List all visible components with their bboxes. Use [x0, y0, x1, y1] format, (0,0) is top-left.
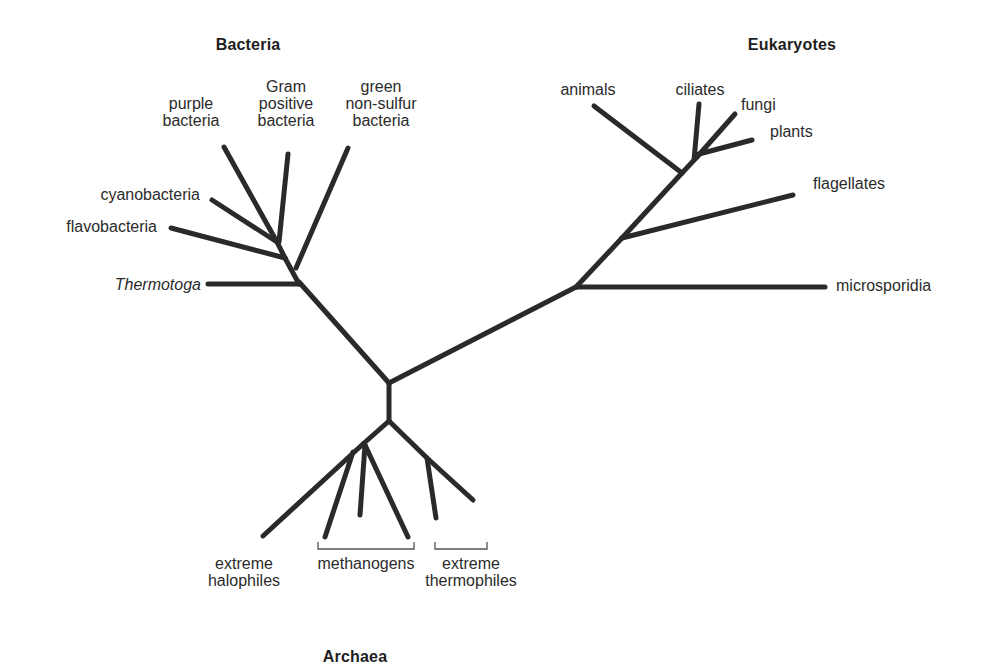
branch-root-to-eukaryotes [389, 287, 576, 383]
leaf-cyanobacteria: cyanobacteria [100, 186, 200, 203]
leaf-text-line: extreme [425, 555, 517, 572]
leaf-fungi: fungi [741, 96, 776, 113]
branch-archaea-right [389, 421, 427, 458]
leaf-text-line: green [345, 78, 416, 95]
leaf-text-line: non-sulfur [345, 95, 416, 112]
branch-green-non-sulfur [296, 148, 348, 268]
leaf-extreme-thermophiles: extreme thermophiles [425, 555, 517, 589]
branch-methanogen-3 [365, 445, 408, 537]
extreme-thermophiles-bracket [435, 542, 487, 549]
leaf-ciliates: ciliates [676, 81, 725, 98]
leaf-text-line: Gram [258, 78, 315, 95]
leaf-text-line: purple [163, 95, 220, 112]
leaf-text-line: extreme [208, 555, 280, 572]
leaf-extreme-halophiles: extreme halophiles [208, 555, 280, 589]
leaf-text-line: positive [258, 95, 315, 112]
branch-flagellates [622, 195, 793, 238]
leaf-methanogens: methanogens [318, 555, 415, 572]
branch-extreme-halophiles [263, 444, 363, 536]
branch-flavobacteria [171, 228, 285, 258]
leaf-flavobacteria: flavobacteria [66, 218, 157, 235]
archaea-text: Archaea [323, 648, 388, 665]
leaf-green-non-sulfur-bacteria: green non-sulfur bacteria [345, 78, 416, 129]
leaf-plants: plants [770, 123, 813, 140]
group-label-archaea: Archaea [323, 648, 388, 665]
leaf-text-line: bacteria [163, 112, 220, 129]
leaf-purple-bacteria: purple bacteria [163, 95, 220, 129]
leaf-gram-positive-bacteria: Gram positive bacteria [258, 78, 315, 129]
methanogens-bracket [318, 542, 414, 549]
branch-methanogen-2 [360, 445, 365, 515]
leaf-text-line: thermophiles [425, 572, 517, 589]
leaf-text-line: bacteria [258, 112, 315, 129]
branch-archaea-left [363, 421, 389, 444]
leaf-thermotoga: Thermotoga [115, 276, 201, 293]
leaf-text-line: bacteria [345, 112, 416, 129]
group-label-bacteria: Bacteria [216, 36, 281, 53]
branch-root-to-bacteria [299, 282, 389, 383]
leaf-animals: animals [560, 81, 615, 98]
branch-ciliates [694, 104, 699, 160]
branch-euk-stem [576, 238, 622, 287]
leaf-flagellates: flagellates [813, 175, 885, 192]
branch-gram-positive [279, 154, 288, 242]
leaf-text-line: halophiles [208, 572, 280, 589]
branch-animals [594, 106, 682, 173]
leaf-microsporidia: microsporidia [836, 277, 931, 294]
group-label-eukaryotes: Eukaryotes [748, 36, 836, 53]
